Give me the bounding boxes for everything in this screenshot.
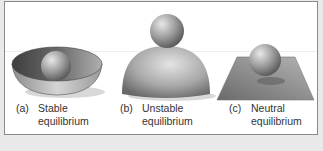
caption-line1: Stable xyxy=(38,102,68,114)
caption-tag: (c) xyxy=(229,102,241,114)
dome-with-ball-illustration xyxy=(110,2,215,102)
caption-line1: Neutral xyxy=(251,102,285,114)
caption-line1: Unstable xyxy=(142,102,183,114)
plane-with-ball-illustration xyxy=(215,2,319,102)
bowl-with-ball-illustration xyxy=(5,2,110,102)
caption-line2: equilibrium xyxy=(38,115,89,127)
caption-line2: equilibrium xyxy=(251,115,302,127)
caption-tag: (b) xyxy=(120,102,133,114)
caption-line2: equilibrium xyxy=(142,115,193,127)
caption-tag: (a) xyxy=(16,102,29,114)
panel-unstable: (b) Unstable equilibrium xyxy=(110,2,215,134)
panel-neutral: (c) Neutral equilibrium xyxy=(215,2,319,134)
figure-frame: (a) Stable equilibrium (b) Unstable equi… xyxy=(4,1,318,135)
panel-stable: (a) Stable equilibrium xyxy=(5,2,110,134)
